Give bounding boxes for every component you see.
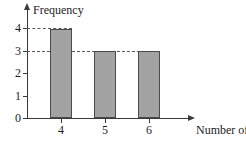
y-tick-2 [23,73,27,74]
y-tick-label-2: 2 [0,67,21,79]
frequency-bar-chart: Frequency Number of cards 0 1 2 3 4 4 5 … [0,0,246,143]
y-tick-label-0-wrap: 0 [0,112,21,124]
y-tick-label-3-wrap: 3 [0,45,21,57]
bar-category-5 [94,51,116,118]
y-tick-label-3: 3 [0,45,21,57]
x-axis-arrow-icon [188,115,195,121]
y-tick-1 [23,96,27,97]
bar-category-6 [138,51,160,118]
x-axis-title: Number of cards [196,124,246,137]
bar-category-4 [50,29,72,119]
x-tick-label-6: 6 [137,124,161,137]
y-tick-label-4-wrap: 4 [0,22,21,34]
x-tick-label-5: 5 [93,124,117,137]
y-axis-title: Frequency [33,3,84,17]
y-tick-0 [23,118,27,119]
y-tick-label-1: 1 [0,90,21,102]
y-axis-arrow-icon [24,3,30,10]
x-tick-label-4: 4 [49,124,73,137]
y-tick-label-4: 4 [0,22,21,34]
y-tick-label-1-wrap: 1 [0,90,21,102]
y-tick-label-2-wrap: 2 [0,67,21,79]
y-tick-label-0: 0 [0,112,21,124]
y-axis-line [27,9,28,119]
